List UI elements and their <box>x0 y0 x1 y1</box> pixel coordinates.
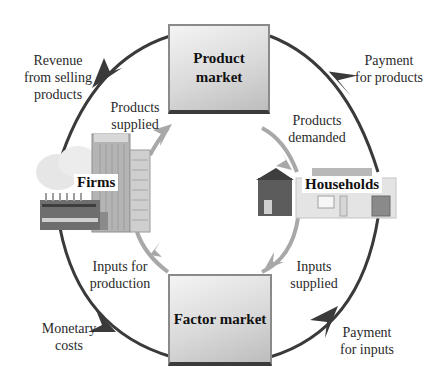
inputs-supplied-arrowhead <box>264 252 284 270</box>
payment-inputs-arrowhead <box>310 306 338 338</box>
monetary-costs-label: Monetary costs <box>36 320 102 354</box>
firms-label: Firms <box>74 174 118 191</box>
revenue-label: Revenue from selling products <box>18 52 98 103</box>
products-supplied-label: Products supplied <box>104 99 166 133</box>
product-market-box: Product market <box>168 24 270 114</box>
households-label: Households <box>302 176 382 193</box>
factor-market-label: Factor market <box>174 310 267 329</box>
products-demanded-label: Products demanded <box>284 112 350 146</box>
inputs-supplied-label: Inputs supplied <box>284 258 344 292</box>
inputs-production-label: Inputs for production <box>86 258 154 292</box>
product-market-label: Product market <box>193 49 244 87</box>
payment-inputs-label: Payment for inputs <box>336 324 398 358</box>
payment-products-label: Payment for products <box>348 52 430 86</box>
factor-market-box: Factor market <box>168 274 272 366</box>
inputs-production-arrowhead <box>150 242 162 257</box>
